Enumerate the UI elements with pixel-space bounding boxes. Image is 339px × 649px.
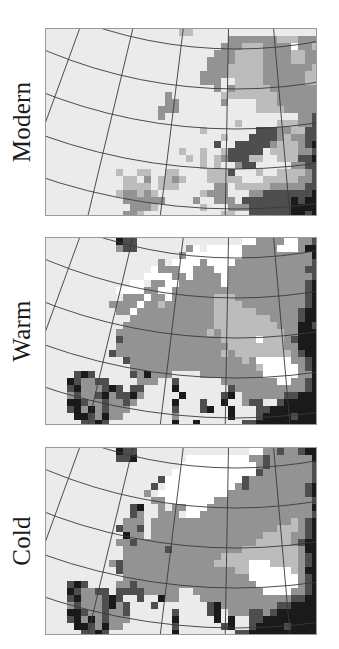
meridian-line: [46, 238, 236, 425]
meridian-line: [220, 238, 236, 425]
meridian-line: [46, 29, 236, 216]
meridian-line: [46, 448, 236, 635]
graticule-cold: [46, 448, 317, 635]
latitude-line: [46, 448, 317, 588]
panel-label-modern: Modern: [0, 28, 44, 216]
meridian-line: [126, 238, 236, 425]
graticule-warm: [46, 238, 317, 425]
latitude-line: [46, 29, 317, 49]
panel-label-cold: Cold: [0, 447, 44, 635]
meridian-line: [46, 448, 236, 635]
meridian-line: [46, 238, 236, 425]
map-panel-modern: [45, 28, 317, 216]
latitude-line: [46, 238, 317, 258]
meridian-line: [236, 29, 314, 216]
meridian-line: [236, 448, 314, 635]
meridian-line: [46, 29, 236, 216]
meridian-line: [46, 29, 236, 216]
meridian-line: [46, 29, 236, 216]
meridian-line: [46, 238, 236, 425]
meridian-line: [126, 448, 236, 635]
latitude-line: [46, 29, 317, 169]
graticule-modern: [46, 29, 317, 216]
meridian-line: [220, 29, 236, 216]
map-panel-cold: [45, 447, 317, 635]
meridian-line: [236, 238, 314, 425]
meridian-line: [220, 448, 236, 635]
latitude-line: [46, 448, 317, 468]
latitude-line: [46, 238, 317, 378]
meridian-line: [46, 448, 236, 635]
meridian-line: [46, 238, 236, 425]
map-panel-warm: [45, 237, 317, 425]
meridian-line: [46, 448, 236, 635]
panel-label-warm: Warm: [0, 237, 44, 425]
meridian-line: [126, 29, 236, 216]
